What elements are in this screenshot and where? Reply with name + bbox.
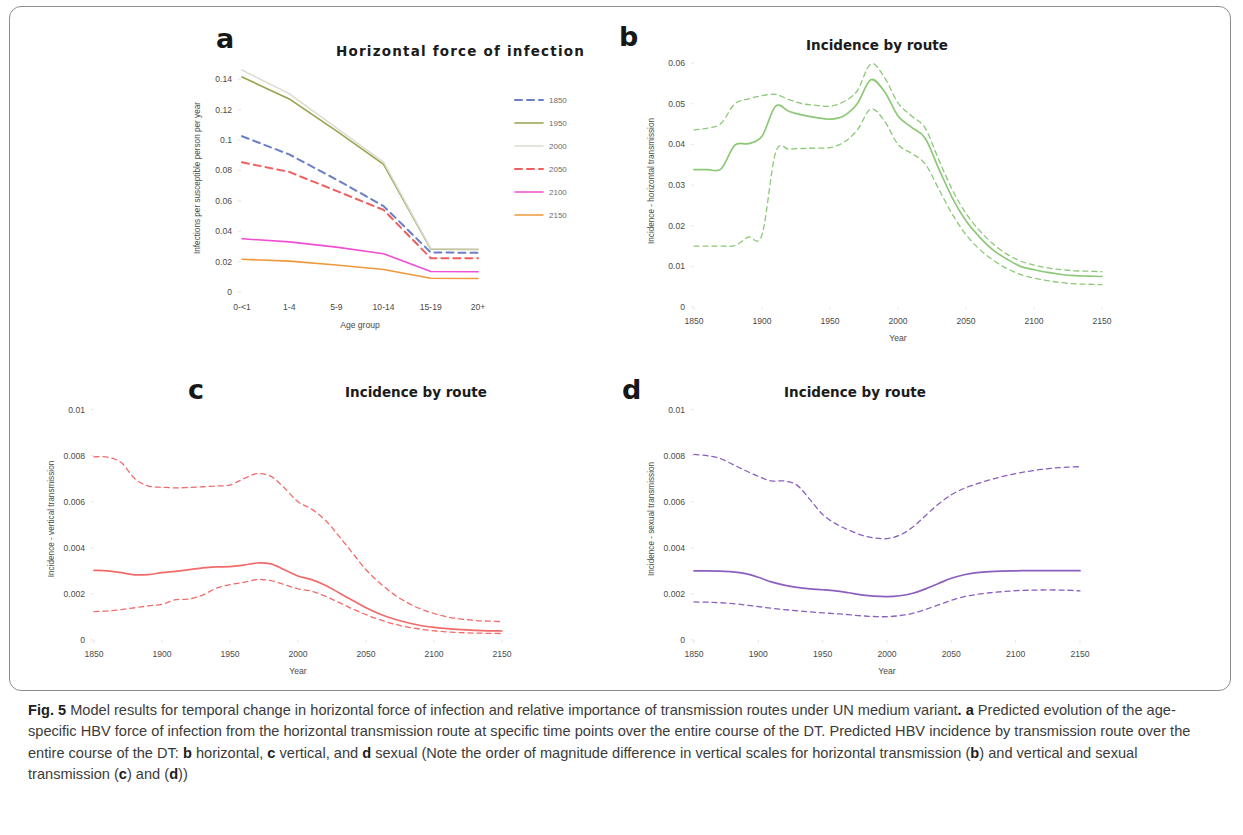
svg-text:5-9: 5-9 bbox=[330, 302, 343, 312]
figure-label: Fig. 5 bbox=[28, 702, 66, 718]
svg-text:2050: 2050 bbox=[356, 649, 375, 659]
legend-label-1850: 1850 bbox=[549, 96, 567, 105]
svg-text:0.01: 0.01 bbox=[68, 405, 85, 415]
panel-c-letter: c bbox=[188, 374, 204, 405]
svg-text:Incidence - vertical transmiss: Incidence - vertical transmission bbox=[47, 460, 56, 577]
series-line-upper bbox=[94, 457, 502, 622]
panel-c: c Incidence by route 00.0020.0040.0060.0… bbox=[10, 362, 622, 692]
svg-text:0: 0 bbox=[227, 287, 232, 297]
svg-text:0: 0 bbox=[80, 635, 85, 645]
caption-a-marker: a bbox=[966, 702, 974, 718]
series-line-2050 bbox=[242, 162, 478, 258]
caption-d-text: sexual (Note the order of magnitude diff… bbox=[371, 745, 970, 761]
svg-text:0.01: 0.01 bbox=[668, 261, 685, 271]
legend-label-2050: 2050 bbox=[549, 165, 567, 174]
svg-text:0.008: 0.008 bbox=[63, 451, 85, 461]
svg-text:2150: 2150 bbox=[1070, 649, 1089, 659]
svg-text:0.05: 0.05 bbox=[668, 99, 685, 109]
svg-text:1850: 1850 bbox=[684, 316, 703, 326]
panel-d: d Incidence by route 00.0020.0040.0060.0… bbox=[610, 362, 1222, 692]
caption-part1: Model results for temporal change in hor… bbox=[66, 702, 957, 718]
panel-d-chart: 00.0020.0040.0060.0080.01Incidence - sex… bbox=[610, 362, 1222, 692]
svg-text:1950: 1950 bbox=[820, 316, 839, 326]
svg-text:2050: 2050 bbox=[956, 316, 975, 326]
svg-text:0.004: 0.004 bbox=[63, 543, 85, 553]
svg-text:0.08: 0.08 bbox=[215, 165, 232, 175]
svg-text:2100: 2100 bbox=[1006, 649, 1025, 659]
svg-text:1950: 1950 bbox=[813, 649, 832, 659]
svg-text:0.006: 0.006 bbox=[63, 497, 85, 507]
svg-text:0.008: 0.008 bbox=[663, 451, 685, 461]
svg-text:0.006: 0.006 bbox=[663, 497, 685, 507]
svg-text:0.002: 0.002 bbox=[663, 589, 685, 599]
series-line-mean bbox=[694, 79, 1102, 276]
caption-b-marker: b bbox=[183, 745, 192, 761]
svg-text:10-14: 10-14 bbox=[373, 302, 395, 312]
caption-period: . bbox=[958, 702, 966, 718]
svg-text:0.01: 0.01 bbox=[668, 405, 685, 415]
svg-text:Incidence - horizontal transmi: Incidence - horizontal transmission bbox=[647, 118, 656, 245]
svg-text:2100: 2100 bbox=[424, 649, 443, 659]
panel-a: a Horizontal force of infection 00.020.0… bbox=[10, 7, 620, 352]
svg-text:0.002: 0.002 bbox=[63, 589, 85, 599]
figure-caption: Fig. 5 Model results for temporal change… bbox=[28, 700, 1218, 786]
series-line-2000 bbox=[242, 70, 478, 249]
svg-text:0.04: 0.04 bbox=[215, 226, 232, 236]
caption-end: )) bbox=[178, 766, 188, 782]
svg-text:15-19: 15-19 bbox=[420, 302, 442, 312]
svg-text:Year: Year bbox=[878, 666, 896, 676]
svg-text:Age group: Age group bbox=[340, 320, 380, 330]
svg-text:2150: 2150 bbox=[492, 649, 511, 659]
svg-text:0.03: 0.03 bbox=[668, 180, 685, 190]
svg-text:Incidence - sexual transmissio: Incidence - sexual transmission bbox=[647, 461, 656, 576]
svg-text:0.12: 0.12 bbox=[215, 105, 232, 115]
panel-d-letter: d bbox=[622, 374, 641, 405]
svg-text:0.06: 0.06 bbox=[215, 196, 232, 206]
panel-c-chart: 00.0020.0040.0060.0080.01Incidence - ver… bbox=[10, 362, 622, 692]
series-line-mean bbox=[94, 563, 502, 631]
svg-text:1900: 1900 bbox=[152, 649, 171, 659]
svg-text:0.1: 0.1 bbox=[220, 135, 232, 145]
svg-text:20+: 20+ bbox=[471, 302, 486, 312]
legend-label-2150: 2150 bbox=[549, 211, 567, 220]
panel-b-chart: 00.010.020.030.040.050.06Incidence - hor… bbox=[610, 7, 1222, 367]
svg-text:0.14: 0.14 bbox=[215, 74, 232, 84]
svg-text:1900: 1900 bbox=[749, 649, 768, 659]
svg-text:0.06: 0.06 bbox=[668, 58, 685, 68]
panel-a-letter: a bbox=[216, 23, 234, 54]
svg-text:0.02: 0.02 bbox=[215, 257, 232, 267]
caption-b-text: horizontal, bbox=[192, 745, 267, 761]
svg-text:2000: 2000 bbox=[877, 649, 896, 659]
panel-b-letter: b bbox=[619, 21, 638, 52]
panel-b: b Incidence by route 00.010.020.030.040.… bbox=[610, 7, 1222, 367]
series-line-lower bbox=[94, 580, 502, 634]
svg-text:0.04: 0.04 bbox=[668, 139, 685, 149]
series-line-upper bbox=[694, 454, 1080, 538]
svg-text:0: 0 bbox=[680, 635, 685, 645]
svg-text:1850: 1850 bbox=[84, 649, 103, 659]
figure-frame: a Horizontal force of infection 00.020.0… bbox=[9, 6, 1231, 691]
series-line-1950 bbox=[242, 77, 478, 250]
caption-c2-marker: c bbox=[119, 766, 127, 782]
caption-and: ) and ( bbox=[127, 766, 169, 782]
svg-text:1900: 1900 bbox=[752, 316, 771, 326]
caption-d-marker: d bbox=[362, 745, 371, 761]
svg-text:Infections per susceptible per: Infections per susceptible person per ye… bbox=[193, 102, 202, 254]
caption-b2-marker: b bbox=[970, 745, 979, 761]
svg-text:2100: 2100 bbox=[1024, 316, 1043, 326]
svg-text:1950: 1950 bbox=[220, 649, 239, 659]
panel-a-title: Horizontal force of infection bbox=[336, 43, 585, 59]
svg-text:Year: Year bbox=[889, 333, 907, 343]
svg-text:0.004: 0.004 bbox=[663, 543, 685, 553]
caption-c-text: vertical, and bbox=[275, 745, 362, 761]
panel-b-title: Incidence by route bbox=[806, 37, 948, 53]
legend-label-1950: 1950 bbox=[549, 119, 567, 128]
caption-d2-marker: d bbox=[169, 766, 178, 782]
panel-d-title: Incidence by route bbox=[784, 384, 926, 400]
svg-text:1850: 1850 bbox=[684, 649, 703, 659]
svg-text:0-<1: 0-<1 bbox=[233, 302, 251, 312]
series-line-2150 bbox=[242, 259, 478, 278]
series-line-mean bbox=[694, 571, 1080, 597]
series-line-lower bbox=[694, 109, 1102, 285]
svg-text:1-4: 1-4 bbox=[283, 302, 296, 312]
